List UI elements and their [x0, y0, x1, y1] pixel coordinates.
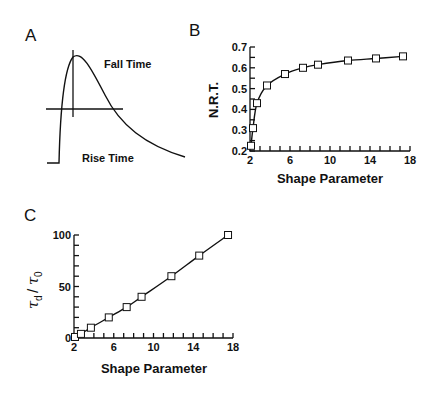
figure: A Fall Time Rise Time B 261014180.20.30.… [0, 0, 439, 394]
y-tick-label: 0.6 [232, 62, 247, 74]
axis-lines [74, 235, 233, 338]
panel-c-series [71, 232, 231, 341]
x-tick-label: 18 [404, 154, 416, 166]
panel-c: C 26101418050100 Shape Parameter τ d / τ… [24, 206, 239, 376]
rise-time-label: Rise Time [82, 152, 134, 164]
panel-letter-c: C [24, 206, 36, 225]
data-point-marker [300, 64, 307, 71]
data-point-marker [168, 273, 175, 280]
x-tick-label: 14 [187, 341, 200, 353]
ratio-slash: / [24, 288, 41, 293]
x-tick-label: 10 [147, 341, 159, 353]
panel-b-y-axis-title: N.R.T. [206, 82, 221, 118]
data-point-marker [254, 100, 261, 107]
data-point-marker [77, 330, 84, 337]
panel-b-x-axis-title: Shape Parameter [277, 171, 383, 186]
data-point-marker [250, 125, 257, 132]
y-tick-label: 0.7 [232, 41, 247, 53]
panel-b-series [248, 53, 407, 149]
x-tick-label: 2 [247, 154, 253, 166]
x-tick-label: 6 [111, 341, 117, 353]
data-point-marker [138, 293, 145, 300]
x-tick-label: 10 [324, 154, 336, 166]
series-line [75, 235, 228, 337]
x-tick-label: 2 [71, 341, 77, 353]
data-point-marker [225, 232, 232, 239]
panel-c-y-axis-title: τ d / τ 0 [24, 271, 44, 309]
panel-letter-a: A [25, 26, 37, 45]
data-point-marker [87, 324, 94, 331]
panel-a: A Fall Time Rise Time [25, 26, 185, 164]
series-line [251, 56, 403, 145]
data-point-marker [105, 314, 112, 321]
y-tick-label: 0 [65, 332, 71, 344]
y-tick-label: 100 [53, 229, 71, 241]
data-point-marker [315, 61, 322, 68]
data-point-marker [345, 57, 352, 64]
y-tick-label: 0.4 [232, 103, 248, 115]
data-point-marker [400, 53, 407, 60]
fall-time-label: Fall Time [104, 58, 151, 70]
x-tick-label: 6 [287, 154, 293, 166]
panel-b: B 261014180.20.30.40.50.60.7 Shape Param… [189, 21, 416, 186]
y-tick-label: 0.2 [232, 145, 247, 157]
data-point-marker [264, 82, 271, 89]
panel-letter-b: B [189, 21, 200, 40]
data-point-marker [248, 142, 255, 149]
y-tick-label: 50 [59, 281, 71, 293]
panel-c-x-axis-title: Shape Parameter [101, 361, 207, 376]
data-point-marker [196, 252, 203, 259]
data-point-marker [282, 71, 289, 78]
tau-0-subscript: 0 [33, 271, 44, 277]
data-point-marker [373, 55, 380, 62]
tau-d-subscript: d [33, 295, 44, 301]
x-tick-label: 14 [364, 154, 377, 166]
y-tick-label: 0.5 [232, 83, 247, 95]
data-point-marker [123, 304, 130, 311]
x-tick-label: 18 [227, 341, 239, 353]
y-tick-label: 0.3 [232, 124, 247, 136]
